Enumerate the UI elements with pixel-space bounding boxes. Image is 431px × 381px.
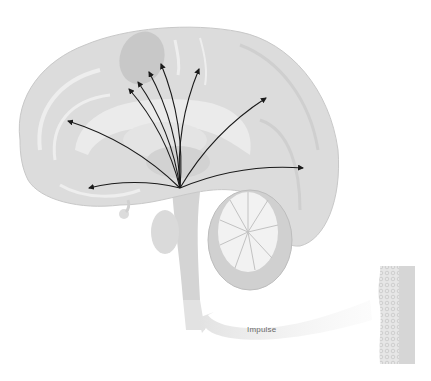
cerebellum bbox=[208, 190, 292, 290]
impulse-arrow bbox=[198, 300, 372, 340]
impulse-label: Impulse bbox=[247, 325, 276, 334]
tissue-sample bbox=[378, 266, 415, 364]
pons bbox=[151, 210, 179, 254]
brain-diagram bbox=[0, 0, 431, 381]
brainstem bbox=[151, 190, 205, 330]
